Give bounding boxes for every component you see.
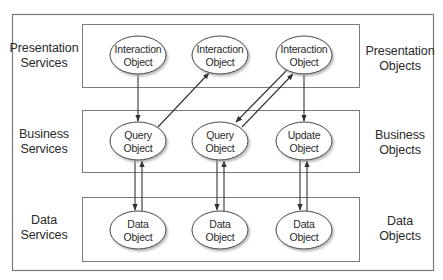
label-line: Services xyxy=(19,142,69,157)
node-interaction-object-3: Interaction Object xyxy=(281,43,328,68)
edge-qo1-io2 xyxy=(158,73,209,127)
label-data-objects: Data Objects xyxy=(379,214,421,244)
label-business-objects: Business Objects xyxy=(375,128,425,158)
label-line: Business xyxy=(375,128,425,143)
node-interaction-object-1: Interaction Object xyxy=(115,43,162,68)
node-label-line: Object xyxy=(281,55,328,68)
label-business-services: Business Services xyxy=(19,127,69,157)
node-label-line: Object xyxy=(123,141,152,154)
node-label-line: Data xyxy=(289,218,318,231)
node-label-line: Object xyxy=(197,55,244,68)
node-label-line: Object xyxy=(289,230,318,243)
label-line: Objects xyxy=(366,59,435,74)
label-presentation-services: Presentation Services xyxy=(10,41,79,71)
architecture-diagram: Presentation Services Business Services … xyxy=(0,0,443,280)
node-label-line: Interaction xyxy=(281,43,328,56)
node-label-line: Update xyxy=(288,129,321,142)
label-line: Data xyxy=(379,214,421,229)
node-update-object: Update Object xyxy=(288,129,321,154)
node-interaction-object-2: Interaction Object xyxy=(197,43,244,68)
label-line: Business xyxy=(19,127,69,142)
label-line: Data xyxy=(20,213,67,228)
node-data-object-1: Data Object xyxy=(123,218,152,243)
label-line: Services xyxy=(20,228,67,243)
node-query-object-2: Query Object xyxy=(205,129,234,154)
edge-qo2-io3 xyxy=(242,74,293,127)
node-label-line: Object xyxy=(288,141,321,154)
label-line: Objects xyxy=(375,143,425,158)
node-data-object-3: Data Object xyxy=(289,218,318,243)
label-presentation-objects: Presentation Objects xyxy=(366,44,435,74)
node-label-line: Interaction xyxy=(197,43,244,56)
node-label-line: Query xyxy=(123,129,152,142)
node-label-line: Query xyxy=(205,129,234,142)
label-line: Presentation xyxy=(10,41,79,56)
node-data-object-2: Data Object xyxy=(205,218,234,243)
node-label-line: Data xyxy=(123,218,152,231)
node-query-object-1: Query Object xyxy=(123,129,152,154)
label-line: Presentation xyxy=(366,44,435,59)
node-label-line: Interaction xyxy=(115,43,162,56)
label-data-services: Data Services xyxy=(20,213,67,243)
edge-io3-qo2 xyxy=(236,70,287,122)
node-label-line: Object xyxy=(205,230,234,243)
node-label-line: Object xyxy=(115,55,162,68)
label-line: Services xyxy=(10,56,79,71)
node-label-line: Object xyxy=(123,230,152,243)
node-label-line: Data xyxy=(205,218,234,231)
node-label-line: Object xyxy=(205,141,234,154)
label-line: Objects xyxy=(379,229,421,244)
